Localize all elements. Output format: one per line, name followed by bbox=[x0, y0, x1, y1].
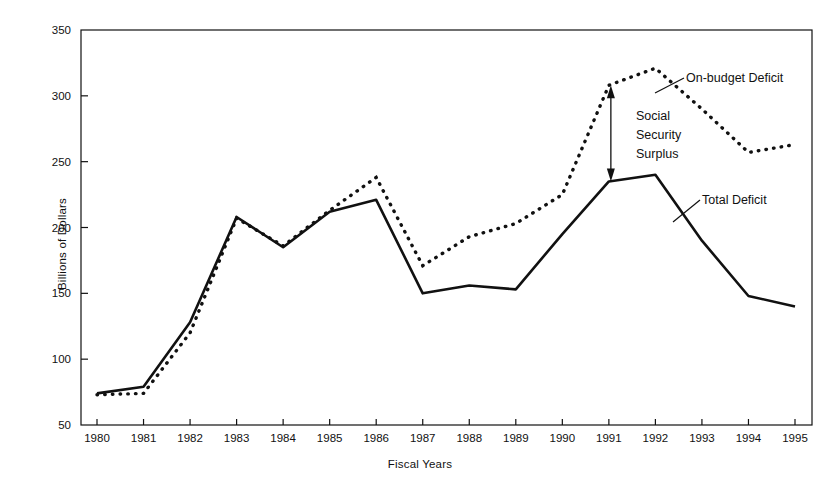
y-tick-label: 350 bbox=[52, 24, 71, 36]
y-tick-label: 150 bbox=[52, 287, 71, 299]
social-security-surplus-line-2: Security bbox=[636, 128, 682, 142]
x-tick-label: 1991 bbox=[596, 432, 622, 444]
x-tick-label: 1994 bbox=[736, 432, 762, 444]
x-tick-label: 1984 bbox=[270, 432, 296, 444]
series-on-budget-deficit bbox=[97, 68, 795, 395]
plot-frame bbox=[81, 30, 812, 425]
y-tick-label: 250 bbox=[52, 156, 71, 168]
x-tick-label: 1980 bbox=[84, 432, 110, 444]
x-tick-label: 1989 bbox=[503, 432, 529, 444]
chart-plot-area: 35030025020015010050 1980198119821983198… bbox=[0, 0, 840, 487]
x-tick-label: 1986 bbox=[363, 432, 389, 444]
x-tick-label: 1992 bbox=[643, 432, 669, 444]
x-tick-label: 1995 bbox=[782, 432, 808, 444]
x-tick-label: 1987 bbox=[410, 432, 436, 444]
x-tick-label: 1990 bbox=[550, 432, 576, 444]
y-tick-label: 200 bbox=[52, 222, 71, 234]
x-tick-label: 1981 bbox=[131, 432, 157, 444]
on-budget-deficit-label: On-budget Deficit bbox=[686, 71, 784, 85]
x-tick-label: 1982 bbox=[177, 432, 203, 444]
social-security-surplus-line-3: Surplus bbox=[636, 147, 678, 161]
x-tick-label: 1983 bbox=[224, 432, 250, 444]
social-security-surplus-arrow bbox=[607, 85, 615, 181]
x-tick-label: 1993 bbox=[689, 432, 715, 444]
y-tick-label: 300 bbox=[52, 90, 71, 102]
x-tick-label: 1988 bbox=[456, 432, 482, 444]
deficit-chart-figure: Billions of Dollars Fiscal Years 3503002… bbox=[0, 0, 840, 487]
social-security-surplus-line-1: Social bbox=[636, 109, 670, 123]
y-tick-label: 100 bbox=[52, 353, 71, 365]
total-deficit-label: Total Deficit bbox=[702, 193, 767, 207]
x-tick-label: 1985 bbox=[317, 432, 343, 444]
y-tick-label: 50 bbox=[58, 419, 71, 431]
x-axis-ticks: 1980198119821983198419851986198719881989… bbox=[84, 419, 808, 444]
y-axis-ticks: 35030025020015010050 bbox=[52, 24, 88, 431]
